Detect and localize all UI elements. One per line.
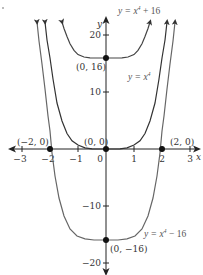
y-axis-label: y	[96, 19, 103, 29]
label-2-0: (2, 0)	[170, 137, 194, 147]
x-tick-labels: −3 −2 −1 0 1 2 3	[13, 154, 193, 164]
fn-label-plus-16: y = x4 + 16	[117, 5, 160, 16]
svg-text:3: 3	[187, 154, 193, 164]
svg-text:10: 10	[90, 87, 102, 97]
svg-text:−3: −3	[13, 154, 27, 164]
svg-text:1: 1	[131, 154, 137, 164]
label-0-16: (0, 16)	[76, 62, 106, 72]
label-0-0: (0, 0)	[84, 137, 108, 147]
point-0-m16	[103, 237, 109, 243]
x-axis-label: x	[196, 152, 201, 162]
label-m2-0: (−2, 0)	[17, 137, 49, 147]
svg-text:−20: −20	[82, 258, 101, 268]
svg-text:−10: −10	[82, 201, 101, 211]
fn-label-x4: y = x4	[127, 71, 151, 82]
svg-text:−1: −1	[69, 154, 82, 164]
point-0-16	[103, 55, 109, 61]
point-2-0	[159, 146, 165, 152]
fn-label-minus-16: y = x4 − 16	[143, 228, 186, 239]
svg-text:0: 0	[97, 154, 103, 164]
label-0-m16: (0, −16)	[110, 244, 147, 254]
svg-text:20: 20	[90, 30, 102, 40]
quartic-function-chart: x y −3 −2 −1 0 1 2 3 20 10 −10 −20	[0, 0, 203, 275]
speck-mark	[2, 7, 4, 9]
